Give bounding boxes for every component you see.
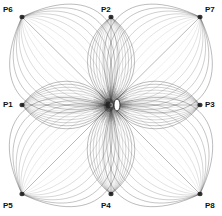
figure-container: P1 P2 P3 P4 P5 P6 P7 P8 [0, 0, 222, 216]
node-label-p1: P1 [3, 100, 13, 109]
node-label-p2: P2 [101, 5, 111, 14]
node-label-p6: P6 [3, 5, 13, 14]
node-label-p3: P3 [205, 100, 215, 109]
node-label-p4: P4 [101, 201, 111, 210]
node-label-p7: P7 [205, 5, 215, 14]
node-label-p8: P8 [205, 201, 215, 210]
node-label-p5: P5 [3, 201, 13, 210]
radial-flow-diagram [0, 0, 222, 216]
